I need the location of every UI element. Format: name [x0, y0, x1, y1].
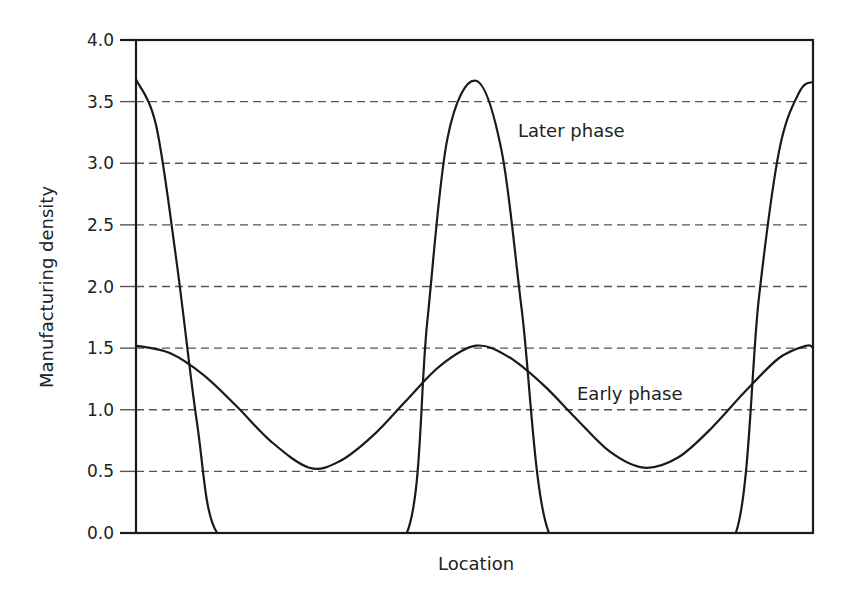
grid-lines — [136, 102, 813, 472]
density-chart: 0.00.51.01.52.02.53.03.54.0 Later phase … — [0, 0, 844, 597]
y-tick-label: 0.5 — [87, 461, 114, 481]
y-tick-label: 4.0 — [87, 30, 114, 50]
y-tick-label: 0.0 — [87, 523, 114, 543]
y-axis-title: Manufacturing density — [36, 186, 57, 388]
y-tick-label: 1.0 — [87, 400, 114, 420]
later-phase-curve — [136, 79, 813, 533]
y-tick-label: 3.5 — [87, 92, 114, 112]
y-tick-label: 2.5 — [87, 215, 114, 235]
later-phase-label: Later phase — [518, 120, 625, 141]
data-curves — [136, 79, 813, 533]
early-phase-label: Early phase — [577, 383, 683, 404]
y-axis-ticks: 0.00.51.01.52.02.53.03.54.0 — [87, 30, 136, 543]
y-tick-label: 3.0 — [87, 153, 114, 173]
y-tick-label: 2.0 — [87, 277, 114, 297]
x-axis-title: Location — [438, 553, 514, 574]
y-tick-label: 1.5 — [87, 338, 114, 358]
early-phase-curve — [136, 345, 813, 469]
